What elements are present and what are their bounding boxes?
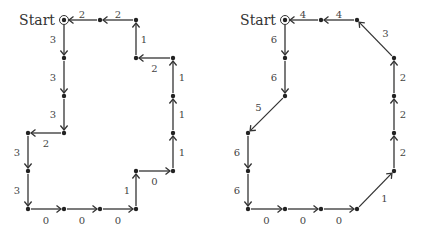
edge-weight-label: 1 (141, 34, 147, 45)
edge-m-l: 5 (250, 98, 283, 131)
graph-node (283, 56, 287, 60)
graph-node (62, 56, 66, 60)
edge-weight-label: 1 (381, 193, 387, 204)
edge-o-n: 2 (31, 129, 61, 148)
start-label: Start (240, 12, 276, 28)
edge-h-g: 0 (139, 167, 170, 186)
edge-a-S: 2 (69, 9, 97, 24)
graph-node (171, 56, 175, 60)
edge-weight-label: 0 (43, 215, 49, 226)
edge-l-k: 6 (234, 136, 252, 168)
edge-weight-label: 3 (14, 185, 20, 196)
start-node (62, 18, 66, 22)
graph-node (355, 207, 359, 211)
start-node (283, 18, 287, 22)
edge-a-S: 4 (290, 9, 318, 24)
edge-weight-label: 4 (300, 9, 306, 20)
edge-f-e: 2 (390, 136, 406, 168)
edge-n-m: 6 (271, 61, 289, 93)
graph-node (392, 56, 396, 60)
edge-e-d: 1 (169, 61, 185, 93)
edge-h-g: 0 (324, 205, 354, 225)
edge-i-h: 1 (124, 174, 140, 206)
edge-weight-label: 0 (336, 215, 342, 226)
edge-weight-label: 6 (234, 147, 240, 158)
graph-node (134, 169, 138, 173)
graph-node (26, 169, 30, 173)
graph-node (26, 207, 30, 211)
edge-d-c: 2 (139, 54, 170, 73)
graph-node (283, 94, 287, 98)
graph-node (319, 18, 323, 22)
edge-b-a: 4 (324, 9, 354, 24)
edge-n-m: 3 (14, 136, 32, 168)
edge-k-j: 6 (234, 174, 252, 206)
edge-S-q: 3 (50, 25, 68, 55)
edge-weight-label: 3 (50, 109, 56, 120)
edge-weight-label: 1 (124, 185, 130, 196)
edge-weight-label: 3 (50, 72, 56, 83)
edge-weight-label: 6 (271, 72, 277, 83)
graph-node (355, 18, 359, 22)
edge-weight-label: 2 (79, 9, 85, 20)
graph-canvas: 333233000101112122Start 665660001222344S… (0, 0, 431, 236)
graph-node (319, 207, 323, 211)
graph-node (62, 94, 66, 98)
edge-weight-label: 0 (151, 176, 157, 187)
edge-S-n: 6 (271, 25, 289, 55)
edge-d-c: 2 (390, 61, 406, 93)
graph-node (392, 94, 396, 98)
edge-weight-label: 2 (151, 63, 157, 74)
edge-g-f: 1 (169, 136, 185, 168)
edge-weight-label: 2 (400, 72, 406, 83)
edge-weight-label: 1 (179, 72, 185, 83)
edge-weight-label: 0 (79, 215, 85, 226)
edge-j-i: 0 (103, 205, 133, 225)
graph-node (98, 18, 102, 22)
edge-weight-label: 3 (382, 28, 388, 39)
edge-weight-label: 0 (115, 215, 121, 226)
edge-k-j: 0 (67, 205, 97, 225)
right-graph: 665660001222344Start (234, 9, 406, 226)
edge-weight-label: 1 (179, 109, 185, 120)
graph-node (171, 131, 175, 135)
edge-m-l: 3 (14, 174, 32, 206)
left-graph: 333233000101112122Start (14, 9, 185, 226)
graph-node (392, 169, 396, 173)
graph-node (246, 169, 250, 173)
edge-f-e: 1 (169, 99, 185, 130)
graph-node (246, 131, 250, 135)
edge-c-b: 1 (132, 23, 147, 55)
edge-weight-label: 2 (43, 138, 49, 149)
graph-node (134, 18, 138, 22)
edge-weight-label: 0 (263, 215, 269, 226)
edge-weight-label: 2 (400, 147, 406, 158)
edge-weight-label: 4 (336, 9, 342, 20)
graph-node (62, 131, 66, 135)
edge-weight-label: 3 (50, 34, 56, 45)
edge-j-i: 0 (251, 205, 282, 225)
graph-node (392, 131, 396, 135)
edge-weight-label: 1 (179, 147, 185, 158)
graph-node (134, 207, 138, 211)
graph-node (26, 131, 30, 135)
edge-weight-label: 2 (115, 9, 121, 20)
edge-p-o: 3 (50, 99, 68, 130)
graph-node (283, 207, 287, 211)
edge-l-k: 0 (31, 205, 61, 225)
edge-i-h: 0 (288, 205, 318, 225)
edge-weight-label: 2 (400, 109, 406, 120)
graph-node (171, 94, 175, 98)
edge-weight-label: 0 (300, 215, 306, 226)
start-label: Start (19, 12, 55, 28)
graph-node (134, 56, 138, 60)
edge-q-p: 3 (50, 61, 68, 93)
edge-e-d: 2 (390, 99, 406, 130)
edge-weight-label: 6 (271, 34, 277, 45)
graph-node (98, 207, 102, 211)
edge-c-b: 3 (359, 22, 392, 56)
edge-weight-label: 6 (234, 185, 240, 196)
edge-b-a: 2 (103, 9, 133, 24)
graph-node (171, 169, 175, 173)
edge-weight-label: 3 (14, 147, 20, 158)
